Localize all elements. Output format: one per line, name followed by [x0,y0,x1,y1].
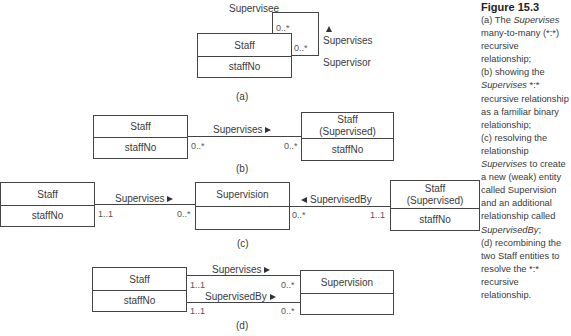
entity-name: Staff [94,116,187,137]
multiplicity-top-right: 0..* [281,280,295,290]
direction-right-icon [265,127,271,133]
entity-name-qualifier: (Supervised) [302,125,393,137]
caption-line: recursive relationship [481,93,571,106]
loop-line-bottom [291,55,319,56]
caption-line: (a) The Supervises [481,14,571,27]
caption-a: (a) [236,91,248,102]
entity-name: Supervision [196,183,289,206]
loop-line-left [272,12,273,33]
direction-up-icon [326,26,332,32]
caption-line: relationship [481,145,571,158]
caption-line: SupervisedBy; [481,224,571,237]
multiplicity-top: 0..* [276,23,290,33]
figure-caption: Figure 15.3 (a) The Supervisesmany-to-ma… [481,1,571,302]
caption-line: relationship; [481,119,571,132]
loop-line-right [318,12,319,56]
entity-name: Staff [198,34,291,56]
caption-line: and an additional [481,197,571,210]
relationship-supervises: Supervises [213,124,271,135]
entity-staff: Staff staffNo [93,115,188,159]
role-supervisor: Supervisor [323,57,371,68]
caption-line: relationship. [481,289,571,302]
caption-line: recursive [481,276,571,289]
entity-name: Supervision [301,271,393,293]
caption-line: as a familiar binary [481,106,571,119]
loop-line-top [272,12,319,13]
relationship-supervisedby: SupervisedBy [205,291,276,302]
relationship-line-supervisedby [186,302,301,303]
relationship-line-supervises [94,204,196,205]
caption-line: relationship called [481,210,571,223]
entity-attribute [301,293,393,314]
multiplicity-bottom-right: 0..* [281,306,295,316]
entity-supervision: Supervision [300,270,394,315]
direction-left-icon [301,197,307,203]
caption-line: resolve the *:* [481,263,571,276]
caption-line: Supervises to create [481,158,571,171]
relationship-supervises: Supervises [212,264,270,275]
caption-line: recursive [481,40,571,53]
relationship-supervisedby: SupervisedBy [301,194,372,205]
entity-attribute: staffNo [94,137,187,158]
caption-line: Supervises *:* [481,79,571,92]
caption-line: relationship; [481,53,571,66]
entity-staff: Staff staffNo [197,33,292,78]
entity-name: Staff [1,183,94,205]
entity-attribute: staffNo [302,138,393,160]
figure-caption-text: (a) The Supervisesmany-to-many (*:*)recu… [481,14,571,302]
multiplicity-top-left: 1..1 [190,280,205,290]
entity-attribute: staffNo [93,290,186,311]
entity-staff-supervised: Staff (Supervised) staffNo [301,112,394,161]
caption-line: (d) recombining the [481,237,571,250]
entity-staff: Staff staffNo [0,182,95,227]
direction-right-icon [264,267,270,273]
multiplicity-left: 0..* [292,210,306,220]
entity-name-qualifier: (Supervised) [391,194,479,206]
entity-staff-supervised: Staff (Supervised) staffNo [390,180,480,231]
multiplicity-right: 1..1 [370,210,385,220]
entity-name: Staff [93,268,186,290]
multiplicity-left: 1..1 [98,209,113,219]
caption-line: a new (weak) entity [481,171,571,184]
entity-name: Staff [302,114,393,125]
caption-c: (c) [237,238,249,249]
multiplicity-right: 0..* [177,209,191,219]
entity-supervision: Supervision [195,182,290,230]
caption-d: (d) [236,320,248,331]
relationship-line-supervises [186,275,301,276]
caption-line: (c) resolving the [481,132,571,145]
entity-attribute: staffNo [198,56,291,77]
entity-staff: Staff staffNo [92,267,187,312]
caption-line: called Supervision [481,184,571,197]
relationship-supervises: Supervises [323,35,372,46]
relationship-supervises: Supervises [115,193,173,204]
multiplicity-bottom-left: 1..1 [190,306,205,316]
entity-name: Staff [391,183,479,194]
relationship-line [187,136,302,137]
caption-line: two Staff entities to [481,250,571,263]
figure-title: Figure 15.3 [481,1,571,14]
entity-attribute: staffNo [391,208,479,230]
relationship-line-supervisedby [289,206,391,207]
direction-right-icon [270,294,276,300]
caption-line: (b) showing the [481,66,571,79]
multiplicity-right: 0..* [284,141,298,151]
caption-line: many-to-many (*:*) [481,27,571,40]
entity-attribute [196,206,289,229]
multiplicity-right: 0..* [294,43,308,53]
caption-b: (b) [236,163,248,174]
direction-right-icon [167,196,173,202]
multiplicity-left: 0..* [191,141,205,151]
entity-attribute: staffNo [1,205,94,226]
